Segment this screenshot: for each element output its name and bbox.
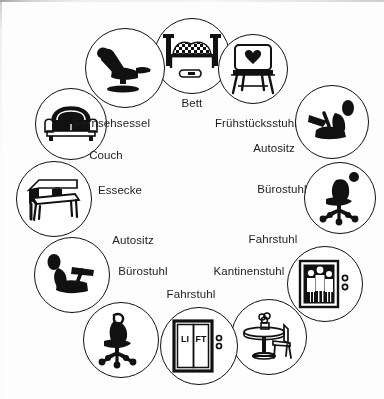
- label-buerostuhl-links: Bürostuhl: [97, 265, 189, 278]
- label-fahrstuhl-unten: Fahrstuhl: [146, 288, 236, 301]
- car-seat-icon: [44, 252, 100, 298]
- node-bett[interactable]: [154, 18, 230, 94]
- label-kantinenstuhl: Kantinenstuhl: [193, 265, 305, 278]
- node-fernsehsessel[interactable]: [85, 28, 165, 108]
- elevator-people-icon: [297, 258, 353, 310]
- elevator-doors-icon: LI FT: [170, 318, 228, 374]
- bed-icon: [161, 32, 223, 80]
- scan-artifact-left-edge: [0, 0, 2, 399]
- svg-text:FT: FT: [196, 334, 207, 344]
- node-buerostuhl-rechts[interactable]: [304, 162, 376, 234]
- dining-bench-icon: [25, 174, 83, 224]
- diagram-canvas: Bett Frühstücksstuhl: [0, 0, 384, 399]
- node-kantinenstuhl[interactable]: [231, 299, 307, 375]
- node-essecke[interactable]: [16, 161, 92, 237]
- cafe-table-chair-icon: [240, 311, 298, 363]
- label-autositz-rechts: Autositz: [229, 142, 319, 155]
- label-fahrstuhl-rechts: Fahrstuhl: [228, 233, 318, 246]
- label-couch: Couch: [66, 149, 146, 162]
- label-fernsehsessel: Fernsehsessel: [48, 117, 176, 130]
- heart-back-chair-icon: [228, 42, 278, 96]
- recliner-icon: [94, 42, 156, 94]
- node-autositz-links[interactable]: [34, 237, 110, 313]
- office-chair-icon: [94, 311, 148, 369]
- car-seat-icon: [305, 99, 359, 145]
- svg-text:LI: LI: [181, 334, 189, 344]
- node-buerostuhl-links[interactable]: [83, 302, 159, 378]
- label-buerostuhl-rechts: Bürostuhl: [236, 183, 328, 196]
- label-autositz-links: Autositz: [88, 234, 178, 247]
- node-fahrstuhl-unten[interactable]: LI FT: [160, 307, 238, 385]
- label-essecke: Essecke: [78, 184, 162, 197]
- node-fruehstuecksstuhl[interactable]: [218, 34, 288, 104]
- office-chair-icon: [314, 170, 366, 226]
- scan-artifact-top-edge: [0, 0, 384, 2]
- node-fahrstuhl-rechts[interactable]: [287, 246, 363, 322]
